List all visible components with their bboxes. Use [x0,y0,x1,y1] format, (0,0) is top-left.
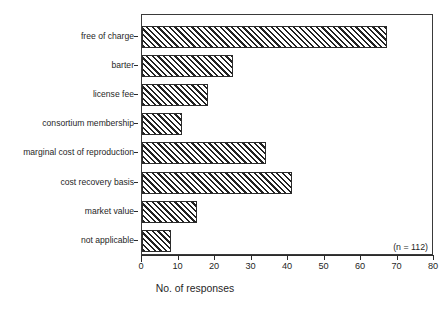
y-axis-tick [134,36,138,37]
y-axis-label: free of charge [81,25,138,47]
x-axis-tick-label: 70 [383,261,411,271]
x-axis-tick-label: 20 [200,261,228,271]
y-axis-tick [134,182,138,183]
y-axis-tick [134,211,138,212]
x-axis-tick-label: 0 [127,261,155,271]
x-axis-tick [397,256,398,260]
y-axis-label: license fee [93,83,138,105]
bar [142,230,171,252]
bar [142,172,292,194]
bar-chart-figure: (n = 112) free of chargebarterlicense fe… [0,0,448,314]
x-axis-tick-label: 60 [346,261,374,271]
y-axis-category-labels: free of chargebarterlicense feeconsortiu… [0,14,138,255]
y-axis-tick [134,94,138,95]
y-axis-tick [134,123,138,124]
sample-size-annotation: (n = 112) [393,242,428,252]
y-axis-label: consortium membership [42,112,138,134]
plot-area: (n = 112) [141,14,433,255]
x-axis-tick [360,256,361,260]
y-axis-label: marginal cost of reproduction [23,141,138,163]
x-axis-tick-label: 10 [164,261,192,271]
y-axis-tick [134,152,138,153]
y-axis-label: cost recovery basis [60,171,138,193]
y-axis-label: market value [85,200,138,222]
y-axis-label: not applicable [81,229,138,251]
bar [142,84,208,106]
y-axis-tick [134,240,138,241]
bar [142,201,197,223]
x-axis-tick [251,256,252,260]
bar [142,142,266,164]
y-axis-tick [134,65,138,66]
x-axis-tick [214,256,215,260]
chart-title [0,0,448,1]
x-axis-title: No. of responses [131,283,259,294]
x-axis-tick-label: 80 [419,261,447,271]
x-axis-tick [433,256,434,260]
x-axis-tick [287,256,288,260]
x-axis-tick-label: 40 [273,261,301,271]
x-axis-tick [324,256,325,260]
x-axis-tick-label: 50 [310,261,338,271]
x-axis-tick-label: 30 [237,261,265,271]
bar [142,55,233,77]
bar [142,113,182,135]
x-axis-tick [178,256,179,260]
bar [142,26,387,48]
